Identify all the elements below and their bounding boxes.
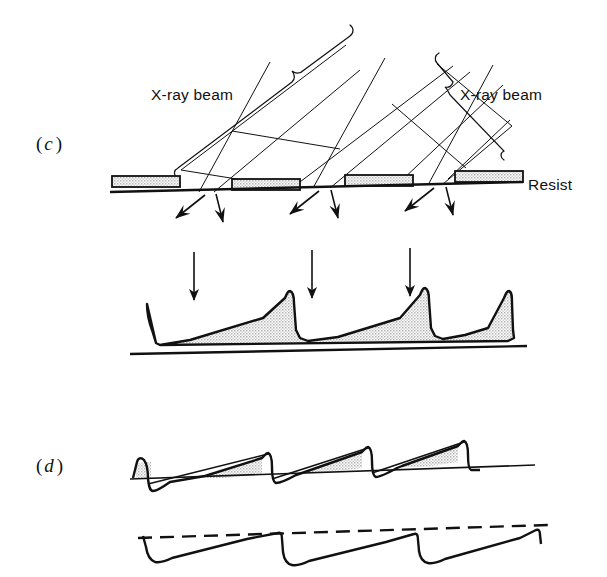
- slanted-exposure-arrow: [176, 195, 205, 218]
- vertical-exposure-arrow: [446, 187, 453, 215]
- slanted-exposure-arrow: [290, 191, 319, 214]
- panel-c-paren-close: ): [56, 133, 62, 155]
- resist-sawtooth-profile: [147, 288, 514, 345]
- panel-d-paren-open: (: [36, 455, 42, 477]
- figure-root: (c): [0, 0, 607, 577]
- vertical-exposure-arrow: [216, 194, 223, 222]
- lower-sawtooth-outline: [143, 530, 541, 566]
- panel-c-paren-open: (: [36, 133, 42, 155]
- mask-bar: [112, 176, 180, 187]
- xray-beam-left-label: X-ray beam: [151, 86, 233, 103]
- exposure-arrow-group: [176, 187, 453, 222]
- development-arrow-group: [194, 248, 410, 300]
- substrate-line-sawtooth: [130, 346, 527, 354]
- panel-label-c: (c): [36, 133, 62, 155]
- mask-bar: [455, 171, 523, 182]
- slanted-exposure-arrow: [405, 188, 434, 211]
- panel-d-letter: d: [44, 455, 54, 476]
- dashed-reference-line: [138, 525, 548, 538]
- xray-lithography-figure: (c): [0, 0, 607, 577]
- panel-label-d: (d): [36, 455, 63, 477]
- panel-d-paren-close: ): [57, 455, 63, 477]
- resist-label: Resist: [528, 176, 573, 193]
- panel-c-letter: c: [44, 133, 53, 154]
- beam-brace-right: [435, 53, 504, 160]
- vertical-exposure-arrow: [331, 190, 338, 218]
- xray-beam-right-label: X-ray beam: [460, 86, 542, 103]
- beam-ray-group: [181, 45, 512, 192]
